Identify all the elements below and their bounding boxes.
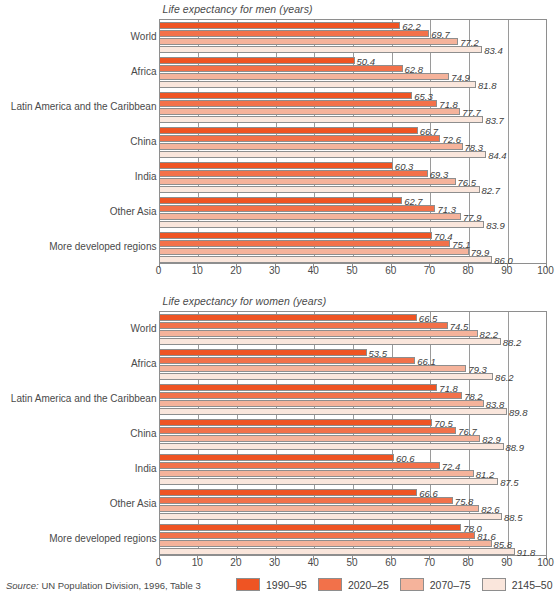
plot-area: 62.269.777.283.450.462.874.981.865.371.8… <box>159 19 547 264</box>
bar <box>160 497 453 504</box>
axis-tick-label-70: 70 <box>414 266 444 276</box>
axis-tick-label-100: 100 <box>531 266 556 276</box>
bar <box>160 419 433 426</box>
bar-value-label: 83.4 <box>484 46 503 56</box>
axis-tick-label-50: 50 <box>337 266 367 276</box>
bar <box>160 408 508 415</box>
category-label-africa: Africa <box>0 359 157 369</box>
bar <box>160 489 418 496</box>
axis-tick-label-30: 30 <box>260 266 290 276</box>
bar <box>160 151 487 158</box>
bar-value-label: 86.2 <box>495 373 514 383</box>
bar <box>160 462 440 469</box>
bar <box>160 548 515 555</box>
legend-swatch <box>482 578 506 591</box>
bar-value-label: 87.5 <box>500 478 519 488</box>
bar <box>160 524 462 531</box>
legend-item-1990-95: 1990–95 <box>236 578 307 591</box>
axis-tick-label-30: 30 <box>260 558 290 568</box>
category-label-india: India <box>0 464 157 474</box>
bar-value-label: 84.4 <box>488 151 507 161</box>
axis-tick-label-90: 90 <box>492 266 522 276</box>
legend-label: 2020–25 <box>348 579 389 591</box>
category-label-other-asia: Other Asia <box>0 499 157 509</box>
legend-swatch <box>400 578 424 591</box>
axis-tick-label-70: 70 <box>414 558 444 568</box>
axis-tick-label-10: 10 <box>182 558 212 568</box>
category-label-latin-america-and-the-caribbean: Latin America and the Caribbean <box>0 102 157 112</box>
plot-area: 66.574.582.288.253.566.179.386.271.878.2… <box>159 311 547 556</box>
bar <box>160 116 484 123</box>
bar <box>160 100 438 107</box>
bar <box>160 92 413 99</box>
bar <box>160 435 481 442</box>
bar <box>160 81 477 88</box>
category-label-more-developed-regions: More developed regions <box>0 534 157 544</box>
bar <box>160 22 401 29</box>
legend-label: 2145–50 <box>512 579 553 591</box>
bar <box>160 197 403 204</box>
bar <box>160 427 457 434</box>
source-note: Source: UN Population Division, 1996, Ta… <box>6 580 201 591</box>
axis-tick-label-20: 20 <box>221 266 251 276</box>
axis-tick-label-20: 20 <box>221 558 251 568</box>
bar <box>160 143 463 150</box>
bar <box>160 349 367 356</box>
bar-value-label: 91.8 <box>517 548 536 558</box>
bar <box>160 256 493 263</box>
category-label-other-asia: Other Asia <box>0 207 157 217</box>
bar <box>160 178 456 185</box>
bar <box>160 392 463 399</box>
axis-tick-label-0: 0 <box>144 266 174 276</box>
bar <box>160 540 492 547</box>
bar-value-label: 88.9 <box>506 443 525 453</box>
bar <box>160 384 438 391</box>
legend-swatch <box>318 578 342 591</box>
bar-value-label: 81.8 <box>478 81 497 91</box>
axis-tick-label-10: 10 <box>182 266 212 276</box>
bar <box>160 108 461 115</box>
bar-value-label: 82.7 <box>482 186 501 196</box>
bar <box>160 232 432 239</box>
axis-tick-label-90: 90 <box>492 558 522 568</box>
chart-legend: 1990–952020–252070–752145–50 <box>236 578 556 591</box>
bar <box>160 205 436 212</box>
category-label-world: World <box>0 32 157 42</box>
bar <box>160 46 483 53</box>
bar <box>160 30 430 37</box>
bar <box>160 532 476 539</box>
bar <box>160 162 393 169</box>
category-label-world: World <box>0 324 157 334</box>
axis-tick-label-50: 50 <box>337 558 367 568</box>
bar <box>160 73 450 80</box>
bar <box>160 443 504 450</box>
chart-title: Life expectancy for women (years) <box>163 295 327 307</box>
legend-item-2145-50: 2145–50 <box>482 578 553 591</box>
bar <box>160 357 416 364</box>
bar <box>160 322 448 329</box>
bar-value-label: 89.8 <box>509 408 528 418</box>
bar <box>160 221 485 228</box>
chart-title: Life expectancy for men (years) <box>163 3 313 15</box>
category-label-china: China <box>0 137 157 147</box>
axis-tick-label-60: 60 <box>376 558 406 568</box>
bar <box>160 338 501 345</box>
bar <box>160 135 441 142</box>
bar-value-label: 88.2 <box>503 338 522 348</box>
category-label-latin-america-and-the-caribbean: Latin America and the Caribbean <box>0 394 157 404</box>
gridline-90 <box>508 20 509 263</box>
bar <box>160 314 417 321</box>
axis-tick-label-40: 40 <box>298 558 328 568</box>
bar <box>160 186 480 193</box>
bar-value-label: 88.5 <box>504 513 523 523</box>
bar <box>160 213 461 220</box>
axis-tick-label-80: 80 <box>453 558 483 568</box>
axis-tick-label-80: 80 <box>453 266 483 276</box>
source-text: UN Population Division, 1996, Table 3 <box>39 580 201 591</box>
bar <box>160 57 355 64</box>
axis-tick-label-40: 40 <box>298 266 328 276</box>
bar <box>160 127 418 134</box>
bar <box>160 248 469 255</box>
category-label-india: India <box>0 172 157 182</box>
bar-value-label: 86.0 <box>494 256 513 266</box>
